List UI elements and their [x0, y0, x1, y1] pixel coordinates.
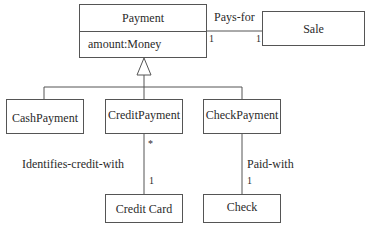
association-label-identifies-credit-with: Identifies-credit-with	[22, 157, 124, 172]
multiplicity-credit-card-side: 1	[149, 175, 154, 186]
class-sale: Sale	[262, 11, 365, 46]
multiplicity-sale-side: 1	[256, 33, 261, 44]
class-credit-payment: CreditPayment	[105, 99, 183, 134]
class-name: CashPayment	[7, 111, 83, 126]
class-check-payment: CheckPayment	[203, 99, 281, 134]
class-cash-payment: CashPayment	[6, 99, 84, 134]
multiplicity-check-side: 1	[247, 175, 252, 186]
class-name: Payment	[80, 11, 206, 26]
uml-class-diagram: Payment amount:Money Sale CashPayment Cr…	[0, 0, 369, 232]
class-payment: Payment amount:Money	[79, 4, 207, 58]
class-name: Sale	[263, 22, 364, 37]
class-name: Credit Card	[106, 202, 182, 217]
attribute-compartment: amount:Money	[80, 31, 206, 57]
generalization-arrowhead-icon	[137, 58, 151, 75]
class-name: CreditPayment	[106, 108, 182, 123]
multiplicity-payment-side: 1	[209, 33, 214, 44]
association-label-pays-for: Pays-for	[214, 10, 255, 25]
attribute: amount:Money	[88, 37, 161, 52]
class-name: Check	[204, 200, 280, 215]
class-check: Check	[203, 194, 281, 223]
multiplicity-credit-payment-side: *	[148, 138, 153, 149]
class-credit-card: Credit Card	[105, 194, 183, 223]
association-label-paid-with: Paid-with	[247, 157, 294, 172]
class-name: CheckPayment	[204, 108, 280, 123]
